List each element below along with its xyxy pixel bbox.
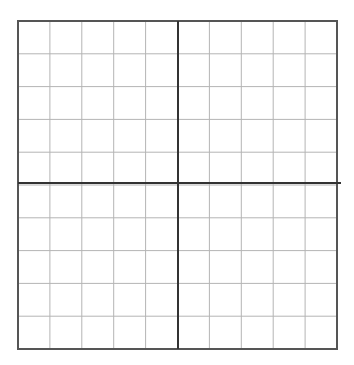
coordinate-grid xyxy=(0,0,354,365)
